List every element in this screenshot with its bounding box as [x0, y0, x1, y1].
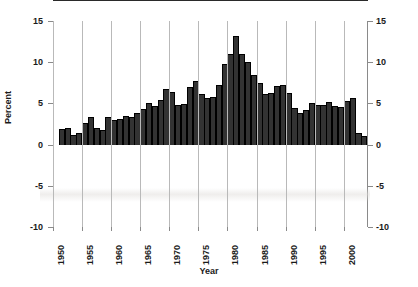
x-tick-label-1975: 1975	[202, 245, 211, 265]
y-tick-right-15	[368, 21, 373, 22]
y-tick-label-right-15: 15	[376, 17, 386, 26]
x-tick-1995	[315, 227, 316, 231]
gridline-1965	[140, 21, 141, 227]
x-tick-1985	[257, 227, 258, 231]
gridline-1990	[286, 21, 287, 227]
y-tick-label-left--5: -5	[35, 182, 43, 191]
gridline-2000	[344, 21, 345, 227]
x-tick-1955	[82, 227, 83, 231]
y-tick-label-right-5: 5	[376, 99, 381, 108]
y-tick-label-left-0: 0	[38, 141, 43, 150]
y-tick-label-right-0: 0	[376, 141, 381, 150]
y-tick-right-5	[368, 103, 373, 104]
x-tick-label-1990: 1990	[290, 245, 299, 265]
x-axis-title: Year	[0, 267, 418, 276]
y-tick-label-right-10: 10	[376, 58, 386, 67]
x-tick-1965	[140, 227, 141, 231]
y-axis-title: Percent	[4, 91, 13, 124]
x-tick-1960	[111, 227, 112, 231]
x-tick-label-1995: 1995	[319, 245, 328, 265]
x-tick-1975	[198, 227, 199, 231]
x-tick-label-1965: 1965	[144, 245, 153, 265]
x-tick-label-1960: 1960	[115, 245, 124, 265]
x-tick-label-2000: 2000	[348, 245, 357, 265]
x-tick-label-1970: 1970	[173, 245, 182, 265]
y-tick-right--5	[368, 186, 373, 187]
y-tick-label-right--5: -5	[376, 182, 384, 191]
y-tick-label-left--10: -10	[30, 223, 43, 232]
x-tick-2000	[344, 227, 345, 231]
gridline-1960	[111, 21, 112, 227]
gridline-1985	[257, 21, 258, 227]
x-tick-label-1980: 1980	[231, 245, 240, 265]
y-tick-right-10	[368, 62, 373, 63]
gridline-1980	[227, 21, 228, 227]
bar	[361, 136, 367, 145]
y-tick-label-left-5: 5	[38, 99, 43, 108]
x-tick-label-1955: 1955	[86, 245, 95, 265]
gridline-1970	[169, 21, 170, 227]
y-tick-right-0	[368, 145, 373, 146]
y-tick-right--10	[368, 227, 373, 228]
gridline-1995	[315, 21, 316, 227]
x-tick-label-1950: 1950	[57, 245, 66, 265]
y-tick-label-right--10: -10	[376, 223, 389, 232]
x-tick-1950	[53, 227, 54, 231]
gridline-1950	[53, 21, 54, 227]
zero-baseline	[53, 0, 368, 1]
x-tick-1980	[227, 227, 228, 231]
gridline-1975	[198, 21, 199, 227]
plot-area	[53, 21, 367, 227]
chart-figure: Percent -10-10-5-50055101015151950195519…	[0, 0, 418, 287]
y-tick-label-left-15: 15	[33, 17, 43, 26]
y-tick-label-left-10: 10	[33, 58, 43, 67]
x-tick-1990	[286, 227, 287, 231]
x-tick-label-1985: 1985	[261, 245, 270, 265]
y-axis-right-spine	[367, 21, 368, 227]
gridline-1955	[82, 21, 83, 227]
x-tick-1970	[169, 227, 170, 231]
